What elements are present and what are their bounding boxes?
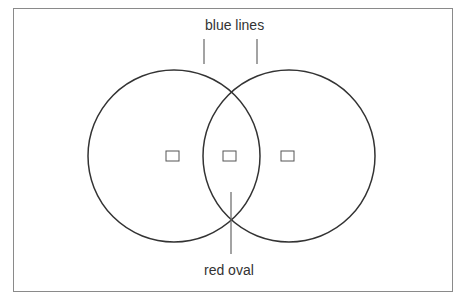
center-marker: [223, 151, 236, 161]
right-marker: [281, 151, 294, 161]
left-marker: [166, 151, 179, 161]
right-circle: [203, 70, 375, 242]
left-circle: [88, 70, 260, 242]
venn-diagram: [0, 0, 463, 300]
label-blue-lines: blue lines: [205, 17, 264, 33]
label-red-oval: red oval: [204, 262, 254, 278]
